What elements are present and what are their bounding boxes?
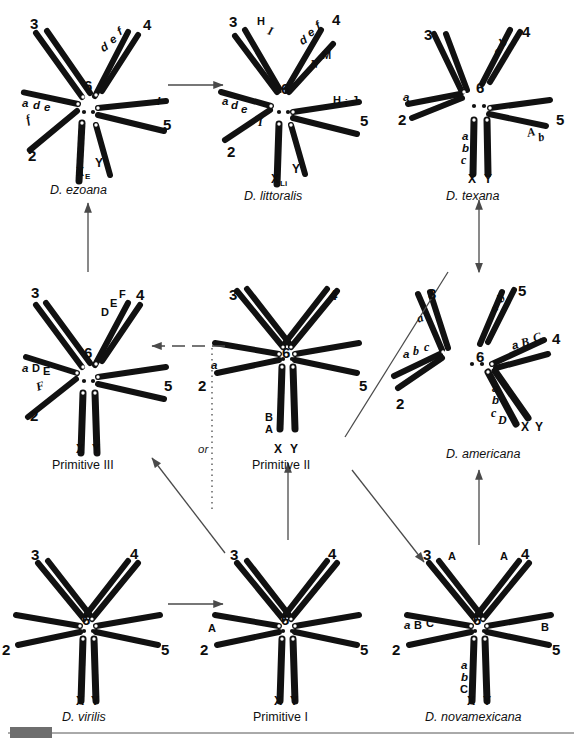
figure-canvas: 3 4 2 5 6 d e f a d e f I X E Y D. ezoan…	[0, 0, 582, 745]
primitive2-arm-2: 2	[198, 378, 206, 393]
ezoana-title: D. ezoana	[50, 184, 107, 197]
americana-band-a3: a	[403, 349, 409, 361]
americana-X: X	[521, 421, 529, 433]
virilis-arm-2: 2	[2, 642, 10, 657]
virilis-arm-3: 3	[31, 547, 39, 562]
primitive3-arm-4: 4	[136, 287, 144, 302]
karyotype-primitive1	[215, 561, 359, 701]
primitive2-X: X	[274, 443, 282, 455]
primitive1-arm-6: 6	[281, 612, 289, 627]
americana-arm-2: 2	[396, 396, 404, 411]
primitive2-Y: Y	[290, 443, 298, 455]
texana-Y: Y	[484, 173, 492, 185]
littoralis-band-e2: e	[241, 104, 247, 116]
ezoana-X: X	[76, 166, 84, 178]
novamexicana-arm-4: 4	[521, 546, 529, 561]
texana-band-c: c	[461, 154, 466, 166]
primitive1-arm-2: 2	[200, 642, 208, 657]
texana-arm-5: 5	[556, 112, 564, 127]
primitive3-band-E2: E	[43, 366, 50, 377]
footer-block	[10, 727, 52, 738]
americana-band-c: c	[424, 341, 429, 353]
americana-band-D: D	[498, 414, 507, 426]
primitive3-arm-5: 5	[164, 378, 172, 393]
littoralis-arm-6: 6	[281, 81, 289, 96]
primitive3-Y: Y	[92, 443, 100, 455]
primitive3-X: X	[76, 443, 84, 455]
novamexicana-arm-2: 2	[392, 642, 400, 657]
novamexicana-band-B1: B	[414, 620, 422, 631]
novamexicana-arm-3: 3	[423, 547, 431, 562]
texana-arm-3: 3	[424, 27, 432, 42]
arrow-primitive2-to-novamexicana	[352, 470, 424, 562]
ezoana-X-sub: E	[85, 173, 90, 181]
primitive1-Y: Y	[290, 695, 298, 707]
primitive3-title: Primitive III	[52, 459, 114, 472]
primitive2-band-B: B	[265, 412, 273, 423]
americana-band-b2: b	[413, 345, 419, 357]
primitive2-arm-4: 4	[329, 287, 337, 302]
primitive3-band-E: E	[110, 298, 117, 309]
littoralis-band-i: i	[345, 99, 348, 108]
virilis-arm-5: 5	[161, 642, 169, 657]
novamexicana-band-a: a	[404, 620, 410, 632]
americana-arm-6: 6	[476, 349, 484, 364]
texana-band-a3: a	[462, 131, 468, 143]
novamexicana-band-B2: B	[541, 622, 549, 633]
ezoana-arm-4: 4	[143, 17, 151, 32]
primitive1-X: X	[274, 695, 282, 707]
littoralis-arm-5: 5	[360, 113, 368, 128]
primitive3-band-D2: D	[32, 363, 40, 374]
or-label: or	[198, 444, 208, 456]
littoralis-band-a: a	[222, 96, 228, 108]
americana-title: D. americana	[446, 448, 520, 461]
virilis-X: X	[76, 695, 84, 707]
littoralis-Y: Y	[292, 163, 300, 175]
littoralis-X: X	[271, 173, 279, 185]
novamexicana-band-A2: A	[500, 551, 508, 562]
americana-arm-3: 3	[428, 286, 436, 301]
ezoana-band-a: a	[22, 98, 28, 110]
littoralis-band-I2: I	[258, 116, 263, 128]
primitive3-arm-2: 2	[30, 408, 38, 423]
ezoana-arm-3: 3	[30, 16, 38, 31]
texana-band-a2: a	[403, 92, 409, 104]
primitive2-arm-6: 6	[282, 345, 290, 360]
texana-X: X	[468, 173, 476, 185]
primitive1-arm-4: 4	[328, 546, 336, 561]
chromosome-vector-layer	[0, 0, 582, 745]
primitive2-title: Primitive II	[252, 459, 310, 472]
primitive3-band-a: a	[22, 363, 28, 375]
texana-arm-6: 6	[476, 80, 484, 95]
littoralis-band-d2: d	[231, 100, 238, 112]
novamexicana-band-a2: a	[461, 660, 467, 672]
americana-band-b3: b	[492, 395, 499, 407]
americana-arm-5: 5	[518, 283, 526, 298]
primitive3-arm-6: 6	[84, 345, 92, 360]
texana-title: D. texana	[446, 190, 500, 203]
primitive2-band-A: A	[265, 424, 273, 435]
littoralis-arm-3: 3	[229, 14, 237, 29]
americana-band-c2: c	[491, 407, 496, 419]
primitive2-arm-5: 5	[359, 378, 367, 393]
novamexicana-band-C1: C	[426, 618, 434, 629]
ezoana-arm-6: 6	[84, 78, 92, 93]
novamexicana-X: X	[467, 695, 475, 707]
ezoana-band-d2: d	[33, 100, 40, 112]
littoralis-band-H2: H	[333, 95, 341, 106]
karyotype-texana	[408, 30, 550, 174]
virilis-arm-4: 4	[130, 546, 138, 561]
littoralis-arm-4: 4	[332, 12, 340, 27]
americana-Y: Y	[535, 421, 543, 433]
ezoana-arm-2: 2	[28, 148, 36, 163]
karyotype-primitive3	[26, 303, 166, 453]
littoralis-band-M: M	[322, 50, 331, 61]
virilis-Y: Y	[91, 695, 99, 707]
texana-arm-2: 2	[398, 112, 406, 127]
primitive1-arm-5: 5	[360, 642, 368, 657]
virilis-arm-6: 6	[82, 612, 90, 627]
virilis-title: D. virilis	[62, 711, 106, 724]
novamexicana-Y: Y	[483, 695, 491, 707]
primitive1-arm-3: 3	[230, 547, 238, 562]
littoralis-band-J: J	[352, 95, 358, 106]
